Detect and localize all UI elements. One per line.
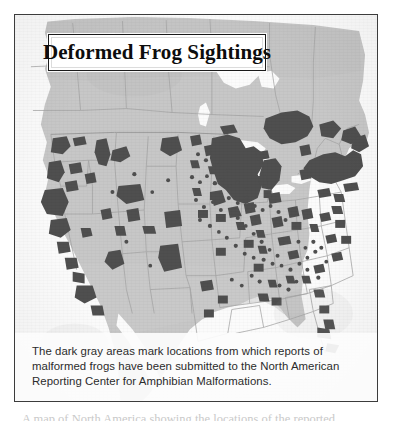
sighting-oregon-2: [69, 162, 83, 174]
sighting-utah: [126, 208, 140, 222]
sighting-va-2: [335, 220, 345, 228]
sighting-nj-md: [331, 206, 343, 214]
sighting-colorado: [164, 210, 182, 228]
sighting-socal-2: [91, 305, 105, 315]
sighting-ks-2: [216, 214, 226, 222]
map-title: Deformed Frog Sightings: [43, 42, 271, 63]
sighting-nc-2: [341, 236, 351, 244]
sighting-texas-3: [204, 309, 214, 317]
sighting-mo-1: [244, 240, 254, 248]
sighting-iowa-2: [244, 202, 256, 214]
sighting-illinois-1: [250, 214, 262, 226]
sighting-arizona-1: [114, 226, 126, 236]
sighting-ks-1: [198, 210, 208, 218]
sighting-ar: [254, 264, 264, 272]
page-body-text-stub: A map of North America showing the locat…: [22, 412, 372, 421]
sighting-nm: [142, 226, 156, 234]
sighting-oklahoma: [216, 248, 226, 256]
map-caption-text: The dark gray areas mark locations from …: [32, 344, 361, 390]
sighting-indiana: [272, 216, 284, 228]
map-figure: Deformed Frog Sightings The dark gray ar…: [14, 14, 378, 402]
sighting-la-1: [258, 294, 270, 302]
sighting-michigan-2: [264, 190, 272, 198]
sighting-oregon-4: [85, 172, 97, 184]
sighting-ontario-2: [299, 144, 311, 156]
sighting-ohio-1: [287, 206, 299, 218]
sighting-texas-1: [200, 280, 214, 292]
sighting-nevada: [101, 208, 113, 220]
sighting-ohio-3: [291, 222, 301, 230]
sighting-cal-coast-3: [73, 272, 85, 284]
sighting-oregon-3: [65, 180, 79, 192]
sighting-ohio-2: [301, 208, 313, 220]
sighting-cal-coast-2: [65, 258, 79, 270]
sighting-texas-2: [218, 296, 228, 304]
map-caption-panel: The dark gray areas mark locations from …: [15, 333, 377, 401]
sighting-ny-west: [299, 168, 311, 180]
sighting-penn-2: [333, 194, 345, 202]
sighting-cal-coast-1: [57, 242, 71, 254]
map-title-plate: Deformed Frog Sightings: [48, 34, 266, 71]
sighting-nd-1: [190, 134, 202, 146]
